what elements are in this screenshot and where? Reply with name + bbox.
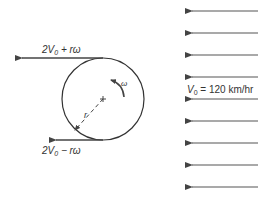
top-arrow-label: 2V0 + rω xyxy=(41,44,81,56)
freestream-label: V0 = 120 km/hr xyxy=(187,84,254,96)
radius-line xyxy=(75,99,103,130)
bottom-arrow-label: 2V0 − rω xyxy=(41,145,81,157)
freestream-arrows xyxy=(192,11,258,187)
radius-label: r xyxy=(84,110,88,120)
omega-label: ω xyxy=(121,79,127,88)
rotating-cylinder-diagram: 2V0 + rω 2V0 − rω ω r V0 = 120 km/hr xyxy=(0,0,269,201)
